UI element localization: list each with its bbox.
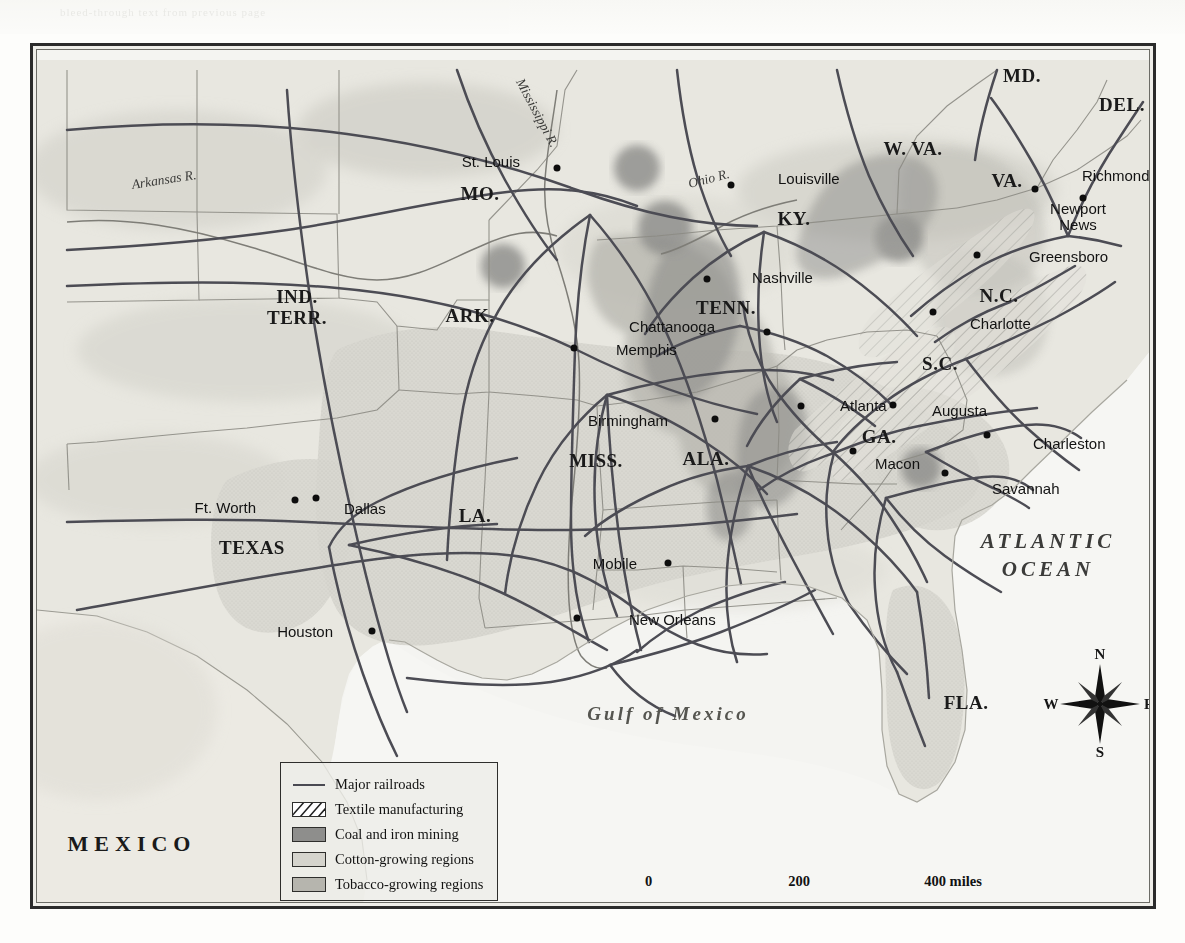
city-label-louisville: Louisville bbox=[778, 170, 840, 187]
state-label-texas: TEXAS bbox=[219, 537, 285, 559]
city-dot-macon bbox=[850, 448, 857, 455]
map-frame: MD.DEL.W. VA.VA.MO.KY.N.C.ARK.TENN.S.C.G… bbox=[30, 43, 1156, 909]
city-label-mobile: Mobile bbox=[593, 555, 637, 572]
legend-item-textile-manufacturing: Textile manufacturing bbox=[292, 797, 497, 822]
state-label-ala: ALA. bbox=[683, 448, 730, 470]
gulf-of-mexico-label: Gulf of Mexico bbox=[587, 703, 748, 725]
legend-item-coal-and-iron-mining: Coal and iron mining bbox=[292, 822, 497, 847]
legend-swatch-textile-hatch-icon bbox=[292, 802, 326, 817]
bleed-text: bleed-through text from previous page bbox=[0, 0, 1185, 24]
scale-miles-tick-2: 400 miles bbox=[924, 873, 982, 890]
legend-label-coal-and-iron-mining: Coal and iron mining bbox=[335, 826, 459, 843]
legend-swatch-cotton-growing-regions bbox=[292, 852, 326, 867]
atlantic-ocean-label: ATLANTICOCEAN bbox=[981, 527, 1116, 584]
city-label-memphis: Memphis bbox=[616, 341, 677, 358]
city-label-new-orleans: New Orleans bbox=[629, 611, 716, 628]
state-label-ga: GA. bbox=[862, 426, 897, 448]
mexico-label: MEXICO bbox=[68, 831, 197, 857]
scale-miles-tick-0: 0 bbox=[645, 873, 652, 890]
city-dot-birmingham bbox=[712, 416, 719, 423]
city-dot-chattanooga bbox=[764, 329, 771, 336]
city-label-macon: Macon bbox=[875, 455, 920, 472]
legend-item-major-railroads: Major railroads bbox=[292, 772, 497, 797]
scale-miles-labels: 0200400 miles bbox=[625, 873, 985, 895]
city-label-atlanta: Atlanta bbox=[840, 397, 887, 414]
state-label-s-c: S.C. bbox=[922, 353, 958, 375]
city-dot-richmond bbox=[1032, 186, 1039, 193]
legend-label-major-railroads: Major railroads bbox=[335, 776, 425, 793]
city-label-richmond: Richmond bbox=[1082, 167, 1150, 184]
legend-swatch-coal-and-iron-mining bbox=[292, 827, 326, 842]
city-dot-memphis bbox=[571, 345, 578, 352]
city-dot-charleston bbox=[984, 432, 991, 439]
state-label-n-c: N.C. bbox=[980, 285, 1019, 307]
state-label-ky: KY. bbox=[777, 208, 810, 230]
map-graphics bbox=[37, 50, 1150, 903]
city-label-greensboro: Greensboro bbox=[1029, 248, 1108, 265]
legend-label-tobacco-growing-regions: Tobacco-growing regions bbox=[335, 876, 483, 893]
city-dot-augusta bbox=[890, 402, 897, 409]
city-dot-savannah bbox=[942, 470, 949, 477]
scale-miles-tick-1: 200 bbox=[788, 873, 810, 890]
compass-east-label: E bbox=[1144, 696, 1150, 713]
city-dot-atlanta bbox=[798, 403, 805, 410]
city-label-chattanooga: Chattanooga bbox=[629, 318, 715, 335]
city-dot-nashville bbox=[704, 276, 711, 283]
state-label-va: VA. bbox=[991, 170, 1022, 192]
state-label-del: DEL. bbox=[1099, 94, 1145, 116]
city-label-ft-worth: Ft. Worth bbox=[195, 499, 256, 516]
city-label-houston: Houston bbox=[277, 623, 333, 640]
city-label-nashville: Nashville bbox=[752, 269, 813, 286]
legend-swatch-tobacco-growing-regions bbox=[292, 877, 326, 892]
map-legend: Major railroadsTextile manufacturingCoal… bbox=[280, 762, 498, 901]
city-dot-houston bbox=[369, 628, 376, 635]
state-label-ark: ARK. bbox=[446, 305, 495, 327]
legend-item-cotton-growing-regions: Cotton-growing regions bbox=[292, 847, 497, 872]
city-dot-ft-worth bbox=[292, 497, 299, 504]
state-label-fla: FLA. bbox=[944, 692, 989, 714]
city-dot-dallas bbox=[313, 495, 320, 502]
city-label-dallas: Dallas bbox=[344, 500, 386, 517]
city-label-newport-news: NewportNews bbox=[1050, 201, 1106, 233]
compass-rose: N E S W bbox=[1039, 642, 1150, 760]
compass-north-label: N bbox=[1095, 646, 1106, 663]
city-label-birmingham: Birmingham bbox=[588, 412, 668, 429]
state-label-w-va: W. VA. bbox=[883, 138, 942, 160]
city-label-charleston: Charleston bbox=[1033, 435, 1106, 452]
map-page: bleed-through text from previous page bbox=[0, 0, 1185, 943]
map-canvas: MD.DEL.W. VA.VA.MO.KY.N.C.ARK.TENN.S.C.G… bbox=[36, 49, 1150, 903]
city-dot-charlotte bbox=[930, 309, 937, 316]
scale-bar: 0200400 miles 0200400 kilometers bbox=[625, 873, 985, 903]
state-label-tenn: TENN. bbox=[696, 297, 756, 319]
city-dot-greensboro bbox=[974, 252, 981, 259]
city-dot-louisville bbox=[728, 182, 735, 189]
city-label-charlotte: Charlotte bbox=[970, 315, 1031, 332]
city-label-savannah: Savannah bbox=[992, 480, 1060, 497]
state-label-mo: MO. bbox=[461, 183, 500, 205]
state-label-la: LA. bbox=[459, 505, 492, 527]
city-dot-new-orleans bbox=[574, 615, 581, 622]
state-label-md: MD. bbox=[1003, 65, 1041, 87]
compass-south-label: S bbox=[1096, 744, 1104, 761]
city-dot-mobile bbox=[665, 560, 672, 567]
page-bleed-through: bleed-through text from previous page bbox=[0, 0, 1185, 34]
city-dot-st-louis bbox=[554, 165, 561, 172]
legend-label-cotton-growing-regions: Cotton-growing regions bbox=[335, 851, 474, 868]
state-label-indian-territory: IND.TERR. bbox=[267, 286, 327, 329]
compass-west-label: W bbox=[1044, 696, 1059, 713]
legend-label-textile-manufacturing: Textile manufacturing bbox=[335, 801, 463, 818]
scale-bar-graphic bbox=[645, 901, 953, 903]
city-label-st-louis: St. Louis bbox=[462, 153, 520, 170]
legend-swatch-railroad-line-icon bbox=[292, 777, 326, 792]
legend-item-tobacco-growing-regions: Tobacco-growing regions bbox=[292, 872, 497, 897]
state-label-miss: MISS. bbox=[569, 450, 623, 472]
city-label-augusta: Augusta bbox=[932, 402, 987, 419]
